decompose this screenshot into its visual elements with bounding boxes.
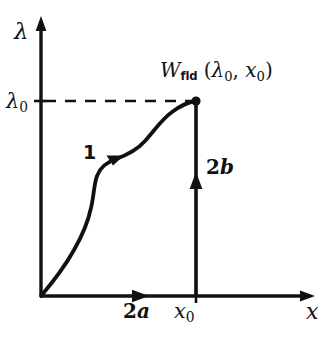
work-function-label: Wfld (λ0, x0) bbox=[160, 60, 273, 83]
lambda-subscript: 0 bbox=[19, 99, 28, 115]
path-2b-letter: b bbox=[220, 155, 234, 179]
plot-canvas bbox=[0, 0, 327, 338]
path-2b-arrowhead-icon bbox=[190, 172, 203, 189]
y-axis-tick-label-lambda0: λ0 bbox=[6, 90, 28, 115]
y-axis-arrowhead-icon bbox=[36, 16, 47, 31]
work-args-comma: , bbox=[233, 58, 246, 82]
work-arg-x-subscript: 0 bbox=[257, 69, 265, 84]
work-arg-lambda: λ bbox=[211, 58, 224, 82]
work-symbol-subscript: fld bbox=[181, 69, 198, 83]
x-glyph: x bbox=[174, 299, 186, 323]
work-arg-x: x bbox=[245, 58, 256, 82]
path-1-label: 1 bbox=[83, 143, 96, 162]
endpoint-marker-dot bbox=[191, 96, 200, 105]
work-args-open: ( bbox=[197, 58, 211, 82]
y-axis-label: λ bbox=[14, 20, 29, 43]
work-args-close: ) bbox=[265, 58, 273, 82]
path-2a-letter: a bbox=[137, 299, 150, 323]
path-2b-number: 2 bbox=[206, 155, 220, 179]
path-2a-label: 2a bbox=[123, 301, 150, 321]
x-axis-label: x bbox=[306, 301, 318, 323]
path-2a-number: 2 bbox=[123, 299, 137, 323]
path-1-curve bbox=[41, 101, 196, 296]
path-2b-label: 2b bbox=[206, 157, 234, 177]
x-axis-tick-label-x0: x0 bbox=[174, 300, 195, 325]
work-symbol-w: W bbox=[160, 58, 181, 82]
lambda-glyph: λ bbox=[6, 89, 19, 113]
x-subscript: 0 bbox=[186, 309, 195, 325]
work-arg-lambda-subscript: 0 bbox=[224, 69, 232, 84]
figure-container: λ λ0 x x0 2a 2b 1 Wfld (λ0, x0) bbox=[0, 0, 327, 338]
